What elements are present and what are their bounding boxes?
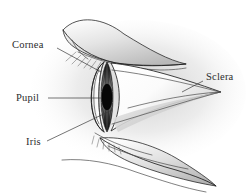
label-pupil: Pupil bbox=[16, 92, 39, 103]
pupil bbox=[102, 84, 112, 110]
eye-diagram-canvas: Cornea Pupil Iris Sclera bbox=[0, 0, 252, 193]
label-iris: Iris bbox=[26, 136, 41, 147]
label-sclera: Sclera bbox=[206, 71, 234, 82]
eye-anatomy-figure: Cornea Pupil Iris Sclera bbox=[0, 0, 252, 193]
label-cornea: Cornea bbox=[12, 39, 44, 50]
